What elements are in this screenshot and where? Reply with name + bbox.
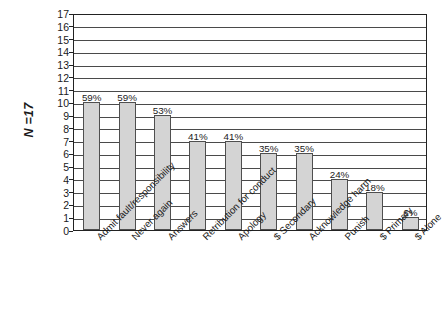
gridline xyxy=(74,53,426,54)
gridline xyxy=(74,66,426,67)
sample-size-label: N =17 xyxy=(22,102,36,137)
sample-size-annotation: N =17 xyxy=(14,88,44,152)
bar-value-label: 41% xyxy=(223,132,243,142)
y-axis-tick-label: 10 xyxy=(57,98,69,109)
bar xyxy=(366,192,383,230)
bar-value-label: 35% xyxy=(294,144,314,154)
y-axis-tick-label: 15 xyxy=(57,34,69,45)
bar-value-label: 59% xyxy=(82,93,102,103)
bar-value-label: 24% xyxy=(330,170,350,180)
y-axis-tick-label: 17 xyxy=(57,9,69,20)
y-axis-tick-label: 16 xyxy=(57,22,69,33)
gridline xyxy=(74,40,426,41)
y-axis-tick-label: 11 xyxy=(58,85,69,96)
bar-value-label: 35% xyxy=(259,144,279,154)
x-axis-category-labels: Admit fault/responsibilityNever againAns… xyxy=(0,231,442,325)
gridline xyxy=(74,78,426,79)
bar-value-label: 59% xyxy=(117,93,137,103)
y-axis-tick-label: 12 xyxy=(57,73,69,84)
bar-chart: N =17 01234567891011121314151617 59%59%5… xyxy=(0,0,442,325)
bar xyxy=(83,102,100,230)
y-axis-tick-label: 14 xyxy=(57,47,69,58)
y-axis-tick-label: 13 xyxy=(57,60,69,71)
y-axis-tick-labels: 01234567891011121314151617 xyxy=(48,14,69,231)
bar-value-label: 41% xyxy=(188,132,208,142)
bar-value-label: 53% xyxy=(153,106,173,116)
gridline xyxy=(74,27,426,28)
